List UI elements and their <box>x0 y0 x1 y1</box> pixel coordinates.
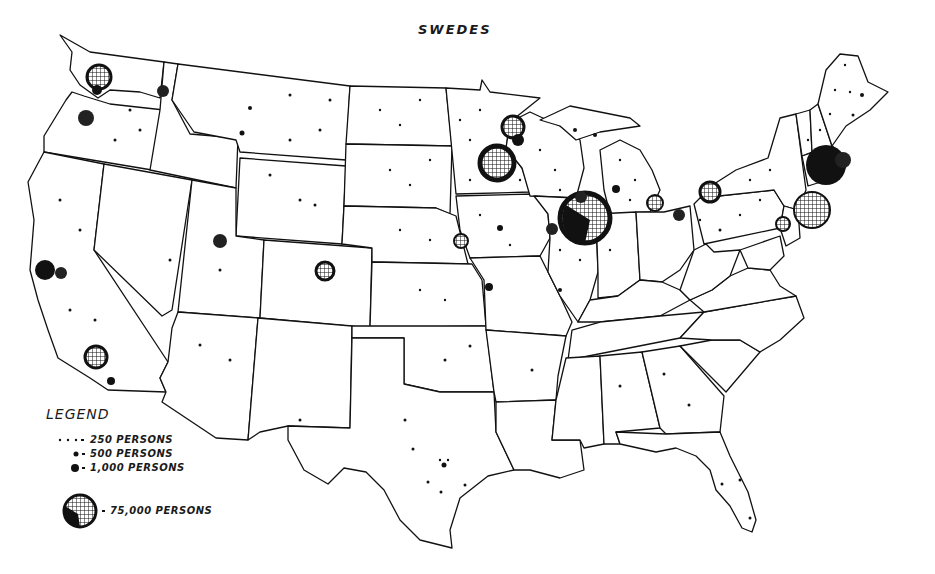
legend-label-500: 500 PERSONS <box>90 448 173 459</box>
state-washington <box>60 35 164 98</box>
state-maine <box>818 54 888 146</box>
globe-icon <box>64 495 105 527</box>
state-south-dakota <box>344 144 452 214</box>
legend-label-1000: 1,000 PERSONS <box>90 462 185 473</box>
map-title: SWEDES <box>418 22 492 37</box>
legend-label-250: 250 PERSONS <box>90 434 173 445</box>
medium-dot-icon <box>74 452 86 457</box>
state-maryland <box>740 236 784 270</box>
state-wyoming <box>236 158 346 244</box>
small-dot-icon <box>59 439 84 441</box>
state-iowa <box>456 194 550 258</box>
state-colorado <box>260 240 372 328</box>
state-kansas <box>370 262 486 328</box>
state-north-dakota <box>346 86 452 146</box>
state-ohio <box>636 206 694 282</box>
legend-label-75000: 75,000 PERSONS <box>110 505 212 516</box>
state-florida <box>616 432 756 532</box>
state-arkansas <box>486 330 566 402</box>
legend: LEGEND 250 PERSONS 500 PERSONS 1,000 PER… <box>40 402 280 532</box>
large-dot-icon <box>71 464 85 472</box>
